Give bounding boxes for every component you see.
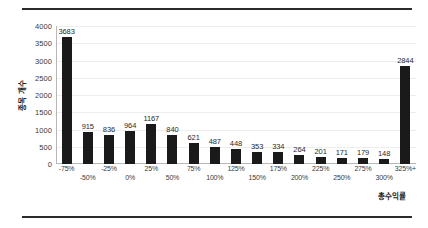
bar[interactable] [62, 37, 72, 164]
bar-value-label: 1167 [143, 114, 159, 123]
bar[interactable] [337, 158, 347, 164]
bar[interactable] [252, 152, 262, 164]
x-axis-tick-slot: 125% [225, 165, 246, 189]
x-axis-tick-label: 250% [333, 174, 350, 181]
x-axis-tick-label: 275% [354, 165, 371, 172]
bar[interactable] [400, 66, 410, 164]
bar-slot[interactable]: 621 [183, 26, 204, 164]
y-axis-tick-label: 3500 [35, 39, 52, 48]
bar[interactable] [125, 131, 135, 164]
bar[interactable] [231, 149, 241, 164]
x-axis-tick-slot: 0% [120, 165, 141, 189]
bar[interactable] [83, 132, 93, 164]
x-axis-tick-label: 0% [125, 174, 135, 181]
bar[interactable] [210, 147, 220, 164]
x-axis-tick-label: 125% [227, 165, 244, 172]
bar-slot[interactable]: 353 [247, 26, 268, 164]
bar-value-label: 201 [315, 147, 327, 156]
bar-slot[interactable]: 487 [204, 26, 225, 164]
x-axis-tick-slot: 100% [204, 165, 225, 189]
bar-value-label: 964 [124, 121, 136, 130]
bar-value-label: 915 [82, 122, 94, 131]
x-axis-tick-slot: -25% [98, 165, 119, 189]
x-axis-tick-slot: 200% [289, 165, 310, 189]
x-axis-tick-slot: 300% [374, 165, 395, 189]
bar[interactable] [273, 152, 283, 164]
y-axis-tick-label: 1000 [35, 125, 52, 134]
bar-value-label: 179 [357, 148, 369, 157]
x-axis-tick-slot: 175% [268, 165, 289, 189]
y-axis-tick-label: 2000 [35, 91, 52, 100]
bar-slot[interactable]: 171 [331, 26, 352, 164]
y-axis-tick-label: 1500 [35, 108, 52, 117]
bar-slot[interactable]: 840 [162, 26, 183, 164]
plot-area: 3683915836964116784062148744835333426420… [56, 26, 416, 164]
bar-slot[interactable]: 148 [374, 26, 395, 164]
bar[interactable] [358, 158, 368, 164]
y-axis-tick-label: 3000 [35, 56, 52, 65]
bottom-divider-rule [22, 216, 412, 218]
bar-slot[interactable]: 448 [225, 26, 246, 164]
bar[interactable] [294, 155, 304, 164]
bar-slot[interactable]: 201 [310, 26, 331, 164]
x-axis-tick-slot: 50% [162, 165, 183, 189]
x-axis-tick-slot: 150% [247, 165, 268, 189]
bar-value-label: 836 [103, 125, 115, 134]
y-axis-tick-label: 2500 [35, 73, 52, 82]
x-axis-tick-label: -75% [59, 165, 75, 172]
x-axis-tick-slot: 325%+ [395, 165, 416, 189]
bar-value-label: 621 [188, 133, 200, 142]
x-axis-tick-label: 225% [312, 165, 329, 172]
top-divider-rule [22, 8, 412, 10]
x-axis-tick-slot: 225% [310, 165, 331, 189]
bar-value-label: 2844 [397, 56, 413, 65]
x-axis-title: 총수익률 [378, 190, 406, 201]
bar-slot[interactable]: 3683 [56, 26, 77, 164]
x-axis-tick-label: 100% [206, 174, 223, 181]
x-axis-tick-slot: -75% [56, 165, 77, 189]
bar-slot[interactable]: 915 [77, 26, 98, 164]
x-axis-tick-slot: -50% [77, 165, 98, 189]
x-axis-tick-label: 50% [166, 174, 179, 181]
x-axis-tick-label: -25% [101, 165, 117, 172]
x-axis-tick-label: -50% [80, 174, 96, 181]
x-axis-tick-slot: 75% [183, 165, 204, 189]
x-axis-tick-label: 25% [145, 165, 158, 172]
bar[interactable] [189, 143, 199, 164]
y-axis-tick-label: 500 [39, 142, 52, 151]
x-axis-tick-slot: 25% [141, 165, 162, 189]
x-axis-tick-slot: 275% [352, 165, 373, 189]
bar-slot[interactable]: 964 [120, 26, 141, 164]
chart-figure: 종목 개수 40003500300025002000150010005000 3… [0, 0, 428, 228]
x-axis-tick-label: 300% [376, 174, 393, 181]
bar[interactable] [146, 124, 156, 164]
bar-slot[interactable]: 179 [352, 26, 373, 164]
bar-value-label: 448 [230, 139, 242, 148]
y-axis-tick-label: 4000 [35, 22, 52, 31]
bar[interactable] [167, 135, 177, 164]
bar-value-label: 3683 [58, 27, 74, 36]
y-axis-tick-label: 0 [48, 160, 52, 169]
bar-value-label: 171 [336, 148, 348, 157]
x-axis-tick-label: 150% [249, 174, 266, 181]
bar-value-label: 148 [378, 149, 390, 158]
bar-slot[interactable]: 2844 [395, 26, 416, 164]
bar-series: 3683915836964116784062148744835333426420… [56, 26, 416, 164]
x-axis-tick-label: 200% [291, 174, 308, 181]
bar[interactable] [104, 135, 114, 164]
x-axis-tick-label: 325%+ [395, 165, 416, 172]
bar-value-label: 334 [272, 142, 284, 151]
bar-slot[interactable]: 836 [98, 26, 119, 164]
x-axis-tick-slot: 250% [331, 165, 352, 189]
bar-value-label: 487 [209, 137, 221, 146]
bar-slot[interactable]: 264 [289, 26, 310, 164]
x-axis-tick-labels: -75%-50%-25%0%25%50%75%100%125%150%175%2… [56, 165, 416, 189]
bar-value-label: 264 [293, 145, 305, 154]
bar-slot[interactable]: 334 [268, 26, 289, 164]
bar-value-label: 840 [166, 125, 178, 134]
x-axis-tick-label: 175% [270, 165, 287, 172]
bar-value-label: 353 [251, 142, 263, 151]
bar[interactable] [316, 157, 326, 164]
bar[interactable] [379, 159, 389, 164]
bar-slot[interactable]: 1167 [141, 26, 162, 164]
